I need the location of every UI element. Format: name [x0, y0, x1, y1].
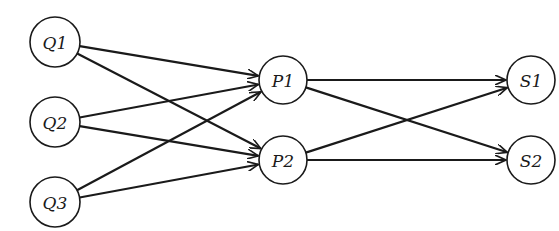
node-p2: P2: [259, 136, 307, 184]
network-diagram: Q1Q2Q3P1P2S1S2: [0, 0, 559, 231]
nodes-layer: Q1Q2Q3P1P2S1S2: [30, 17, 555, 227]
edge-q2-p1: [80, 85, 259, 118]
node-p1: P1: [259, 56, 307, 104]
node-label: P2: [271, 151, 294, 171]
node-label: Q3: [43, 193, 68, 213]
node-q2: Q2: [30, 97, 80, 147]
node-s1: S1: [507, 56, 555, 104]
node-label: P1: [271, 71, 294, 91]
node-q3: Q3: [30, 177, 80, 227]
node-label: Q1: [43, 33, 68, 53]
node-q1: Q1: [30, 17, 80, 67]
node-s2: S2: [507, 136, 555, 184]
edge-q3-p2: [80, 165, 259, 198]
node-label: S2: [520, 151, 542, 171]
node-label: Q2: [43, 113, 68, 133]
edge-q1-p1: [80, 46, 259, 76]
edge-q3-p1: [77, 92, 261, 190]
node-label: S1: [520, 71, 542, 91]
